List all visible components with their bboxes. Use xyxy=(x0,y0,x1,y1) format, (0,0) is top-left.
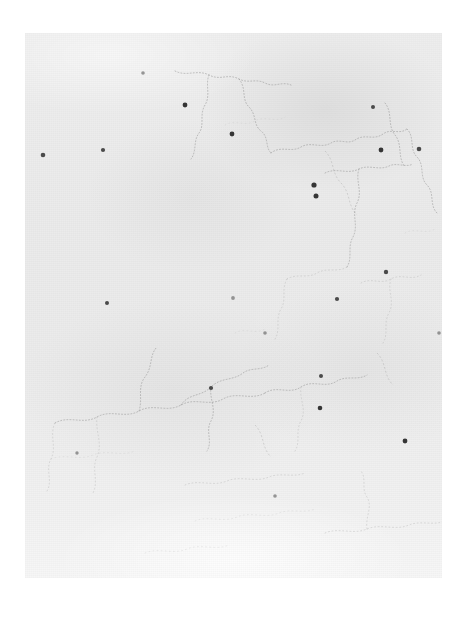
settlement-dot-marker xyxy=(141,71,145,75)
settlement-dot-marker xyxy=(75,451,78,454)
boundary-contour xyxy=(235,329,265,333)
settlement-dot-marker xyxy=(437,331,441,335)
boundary-contour xyxy=(181,365,269,405)
boundary-contour xyxy=(265,375,367,393)
boundary-contour xyxy=(325,164,413,173)
boundary-contour xyxy=(191,75,209,159)
page-margin-top xyxy=(0,0,466,33)
boundary-contour xyxy=(93,417,99,493)
boundary-contour xyxy=(275,279,287,339)
boundary-contour xyxy=(347,169,359,267)
settlement-dot-marker xyxy=(417,147,422,152)
boundary-contour xyxy=(361,471,369,529)
river-lines-group xyxy=(255,151,393,457)
settlement-dot-marker xyxy=(371,105,375,109)
boundary-contour xyxy=(407,129,437,213)
settlement-dots-group xyxy=(41,71,441,498)
settlement-dot-marker xyxy=(183,103,188,108)
boundary-contour xyxy=(225,117,285,125)
scanned-map-sheet xyxy=(25,33,442,578)
page-margin-right xyxy=(442,0,466,618)
settlement-dot-marker xyxy=(231,296,235,300)
boundary-contour xyxy=(47,423,55,491)
settlement-dot-marker xyxy=(263,331,267,335)
settlement-dot-marker xyxy=(101,148,105,152)
settlement-dot-marker xyxy=(209,386,213,390)
boundary-contour xyxy=(195,509,315,521)
river-line xyxy=(325,151,357,215)
settlement-dot-marker xyxy=(230,132,235,137)
page-root xyxy=(0,0,466,618)
settlement-dot-marker xyxy=(403,439,408,444)
boundary-contour xyxy=(239,79,271,153)
settlement-dot-marker xyxy=(379,148,384,153)
boundary-contours-group xyxy=(47,71,442,553)
boundary-contour xyxy=(325,521,442,533)
boundary-contour xyxy=(361,275,421,283)
boundary-contour xyxy=(55,393,265,423)
paper-grain-layer xyxy=(25,33,442,578)
boundary-contour xyxy=(51,451,135,459)
settlement-dot-marker xyxy=(319,374,323,378)
settlement-dot-marker xyxy=(314,194,319,199)
boundary-contour xyxy=(139,347,157,411)
river-line xyxy=(255,425,271,457)
boundary-contour xyxy=(145,545,229,553)
map-vector-canvas xyxy=(25,33,442,578)
settlement-dot-marker xyxy=(105,301,109,305)
boundary-contour xyxy=(207,387,213,451)
paper-tone-layer xyxy=(25,33,442,578)
settlement-dot-marker xyxy=(41,153,46,158)
settlement-dot-marker xyxy=(318,406,323,411)
settlement-dot-marker xyxy=(311,182,316,187)
boundary-contour xyxy=(295,387,303,451)
settlement-dot-marker xyxy=(384,270,388,274)
page-margin-bottom xyxy=(0,578,466,618)
boundary-contour xyxy=(175,71,291,85)
settlement-dot-marker xyxy=(335,297,339,301)
boundary-contour xyxy=(405,229,435,233)
boundary-contour xyxy=(287,267,347,279)
boundary-contour xyxy=(355,129,407,140)
river-line xyxy=(377,353,393,385)
page-margin-left xyxy=(0,0,25,618)
settlement-dot-marker xyxy=(273,494,277,498)
boundary-contour xyxy=(385,103,405,167)
boundary-contour xyxy=(383,279,391,343)
boundary-contour xyxy=(271,140,355,153)
boundary-contour xyxy=(185,473,305,485)
map-artwork-layer xyxy=(25,33,442,578)
